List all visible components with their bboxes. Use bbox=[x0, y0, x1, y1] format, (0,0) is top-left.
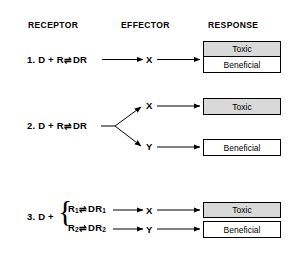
row3-branch1-right: DR bbox=[88, 203, 102, 214]
figure-canvas: RECEPTOR EFFECTOR RESPONSE 1. D + R⇌DR X… bbox=[0, 0, 288, 256]
row1-effector-x: X bbox=[146, 54, 152, 65]
row2-arrow-branch-up bbox=[115, 107, 141, 126]
row3-effector-y: Y bbox=[146, 224, 152, 235]
equilibrium-arrow-icon: ⇌ bbox=[64, 121, 73, 131]
row3-branch2-sub2: 2 bbox=[102, 226, 106, 233]
row3-branch2-left: R bbox=[68, 222, 75, 233]
row1-receptor-equation: 1. D + R⇌DR bbox=[27, 54, 87, 65]
row3-branch1-left: R bbox=[68, 203, 75, 214]
equilibrium-arrow-icon: ⇌ bbox=[79, 223, 88, 233]
equilibrium-arrow-icon: ⇌ bbox=[64, 55, 73, 65]
row2-eq-right: DR bbox=[73, 120, 87, 131]
row2-effector-x: X bbox=[146, 100, 152, 111]
row3-branch2-right: DR bbox=[88, 222, 102, 233]
row3-receptor-prefix: 3. D + bbox=[27, 211, 54, 222]
row3-effector-x: X bbox=[146, 205, 152, 216]
row3-branch1-sub2: 1 bbox=[102, 207, 106, 214]
row1-response-beneficial: Beneficial bbox=[203, 56, 281, 73]
row1-eq-right: DR bbox=[73, 54, 87, 65]
row3-response-toxic: Toxic bbox=[203, 202, 281, 218]
row3-prefix-text: D + bbox=[38, 211, 54, 222]
row2-response-beneficial: Beneficial bbox=[203, 139, 281, 156]
equilibrium-arrow-icon: ⇌ bbox=[79, 204, 88, 214]
row1-eq-left: D + R bbox=[38, 54, 64, 65]
row2-eq-left: D + R bbox=[38, 120, 64, 131]
column-header-effector: EFFECTOR bbox=[121, 20, 170, 30]
row2-receptor-equation: 2. D + R⇌DR bbox=[27, 120, 87, 131]
row3-branch2-equation: R2⇌DR2 bbox=[68, 222, 106, 233]
row1-response-toxic: Toxic bbox=[203, 41, 281, 57]
column-header-response: RESPONSE bbox=[208, 20, 258, 30]
column-header-receptor: RECEPTOR bbox=[28, 20, 78, 30]
row2-arrow-branch-down bbox=[115, 126, 141, 146]
row3-branch1-equation: R1⇌DR1 bbox=[68, 203, 106, 214]
row2-effector-y: Y bbox=[146, 141, 152, 152]
row2-response-toxic: Toxic bbox=[203, 98, 281, 115]
row3-response-beneficial: Beneficial bbox=[203, 221, 281, 238]
